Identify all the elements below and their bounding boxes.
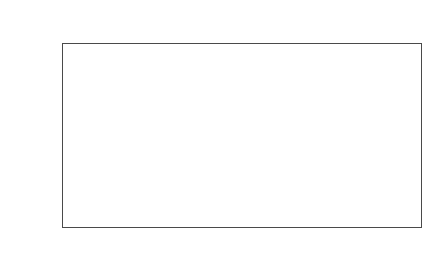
probability-plot	[0, 0, 440, 262]
x-axis-tick-labels	[62, 230, 422, 246]
plot-frame	[62, 43, 422, 228]
y-axis-tick-labels	[0, 43, 57, 228]
plot-canvas	[63, 44, 421, 227]
